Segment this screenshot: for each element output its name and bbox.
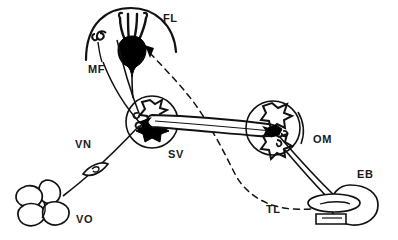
- label-eb: EB: [357, 168, 373, 180]
- leg-upper: [279, 136, 337, 198]
- fluke-structure: [118, 13, 147, 98]
- end-body: [308, 185, 378, 225]
- mf-filament-line-b: [103, 62, 141, 124]
- label-vn: VN: [75, 138, 91, 150]
- vein-line: [63, 126, 139, 196]
- label-om: OM: [313, 133, 332, 145]
- label-sv: SV: [168, 148, 184, 160]
- vein-valve-icon: [83, 163, 108, 175]
- figure-canvas: FL MF VN VO SV OM EB TL: [0, 0, 398, 240]
- label-mf: MF: [88, 63, 105, 75]
- mf-spiral-stem: [98, 42, 102, 62]
- label-tl: TL: [266, 203, 281, 215]
- label-vo: VO: [76, 213, 93, 225]
- lobed-organ: [16, 180, 69, 226]
- label-fl: FL: [163, 12, 178, 24]
- mf-spiral-icon: [92, 31, 106, 40]
- diagram-svg: FL MF VN VO SV OM EB TL: [0, 0, 398, 240]
